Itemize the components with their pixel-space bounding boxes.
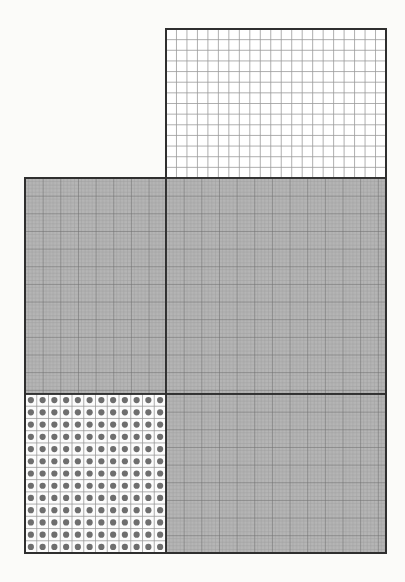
- grid-dot: [87, 434, 93, 440]
- grid-dot: [51, 507, 57, 513]
- grid-dot: [157, 544, 163, 550]
- grid-dot: [98, 470, 104, 476]
- grid-dot: [145, 458, 151, 464]
- grid-dot: [63, 544, 69, 550]
- grid-dot: [157, 532, 163, 538]
- grid-dot: [98, 507, 104, 513]
- grid-dot: [63, 507, 69, 513]
- grid-dot: [145, 544, 151, 550]
- grid-dot: [28, 421, 34, 427]
- grid-dot: [110, 458, 116, 464]
- grid-dot: [145, 495, 151, 501]
- grid-dot: [110, 483, 116, 489]
- grid-dot: [40, 483, 46, 489]
- grid-dot: [134, 470, 140, 476]
- grid-dot: [110, 446, 116, 452]
- grid-dot: [145, 421, 151, 427]
- grid-dot: [63, 458, 69, 464]
- grid-dot: [98, 532, 104, 538]
- grid-dot: [28, 470, 34, 476]
- grid-dot: [40, 532, 46, 538]
- grid-dot: [98, 495, 104, 501]
- grid-dot: [157, 397, 163, 403]
- grid-dot: [157, 483, 163, 489]
- grid-dot: [40, 409, 46, 415]
- grid-dot: [40, 434, 46, 440]
- grid-dot: [145, 434, 151, 440]
- grid-dot: [40, 397, 46, 403]
- grid-dot: [63, 483, 69, 489]
- grid-dot: [157, 495, 163, 501]
- grid-dot: [122, 519, 128, 525]
- panel-lower-right-shaded-grid: [166, 394, 386, 553]
- grid-dot: [40, 470, 46, 476]
- grid-dot: [28, 544, 34, 550]
- grid-dot: [134, 409, 140, 415]
- grid-dot: [110, 532, 116, 538]
- grid-dot: [51, 470, 57, 476]
- grid-dot: [122, 446, 128, 452]
- grid-dot: [87, 544, 93, 550]
- grid-dot: [40, 507, 46, 513]
- grid-dot: [98, 421, 104, 427]
- grid-dot: [51, 421, 57, 427]
- grid-dot: [28, 397, 34, 403]
- panel-lower-left-dotted-grid: [25, 394, 166, 553]
- grid-dot: [122, 483, 128, 489]
- grid-dot: [63, 470, 69, 476]
- grid-dot: [75, 409, 81, 415]
- grid-dot: [134, 458, 140, 464]
- panel-fill: [166, 394, 386, 553]
- grid-dot: [75, 434, 81, 440]
- grid-dot: [98, 483, 104, 489]
- grid-dot: [110, 409, 116, 415]
- grid-dot: [40, 519, 46, 525]
- grid-dot: [51, 397, 57, 403]
- grid-dot: [51, 409, 57, 415]
- grid-dot: [145, 519, 151, 525]
- grid-dot: [110, 519, 116, 525]
- grid-dot: [40, 458, 46, 464]
- grid-dot: [110, 507, 116, 513]
- grid-dot: [75, 532, 81, 538]
- grid-dot: [134, 507, 140, 513]
- grid-dot: [75, 470, 81, 476]
- grid-dot: [98, 446, 104, 452]
- grid-dot: [110, 434, 116, 440]
- grid-dot: [87, 507, 93, 513]
- grid-dot: [98, 544, 104, 550]
- grid-dot: [134, 446, 140, 452]
- grid-dot: [157, 519, 163, 525]
- grid-dot: [28, 519, 34, 525]
- grid-dot: [134, 532, 140, 538]
- grid-dot: [145, 446, 151, 452]
- grid-dot: [98, 434, 104, 440]
- grid-dot: [75, 483, 81, 489]
- grid-dot: [157, 470, 163, 476]
- grid-dot: [98, 409, 104, 415]
- grid-dot: [122, 409, 128, 415]
- grid-dot: [63, 409, 69, 415]
- panel-right-shaded-grid: [166, 178, 386, 394]
- grid-dot: [87, 519, 93, 525]
- grid-dot: [28, 446, 34, 452]
- grid-dot: [87, 470, 93, 476]
- grid-dot: [134, 495, 140, 501]
- grid-dot: [98, 519, 104, 525]
- grid-dot: [75, 446, 81, 452]
- grid-dot: [51, 544, 57, 550]
- grid-dot: [28, 483, 34, 489]
- grid-dot: [28, 495, 34, 501]
- grid-dot: [110, 495, 116, 501]
- grid-dot: [157, 434, 163, 440]
- grid-dot: [75, 421, 81, 427]
- grid-dot: [122, 434, 128, 440]
- panel-fill: [166, 178, 386, 394]
- grid-dot: [75, 519, 81, 525]
- grid-dot: [145, 409, 151, 415]
- grid-dot: [134, 483, 140, 489]
- grid-dot: [28, 532, 34, 538]
- grid-dot: [51, 519, 57, 525]
- grid-dot: [145, 532, 151, 538]
- grid-dot: [75, 458, 81, 464]
